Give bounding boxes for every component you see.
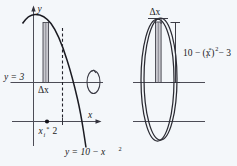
- label-sample-point: x i *: [38, 125, 50, 138]
- region-panel: y x y = 3 Δx x i * 2 y = 10 − x 2: [3, 4, 122, 157]
- label-curve-equation: y = 10 − x 2: [64, 145, 122, 158]
- label-shell-height-paren: ): [211, 48, 214, 59]
- sample-point-dot: [45, 119, 49, 123]
- label-y-equals-3: y = 3: [3, 72, 24, 82]
- y-axis-arrowhead: [31, 6, 35, 12]
- label-x-tick-2: 2: [53, 126, 58, 136]
- shell-panel: Δx 10 − (x i * ) 2 − 3: [133, 7, 231, 142]
- revolution-arrow-icon: [87, 70, 100, 93]
- y-axis-label: y: [37, 4, 43, 14]
- label-shell-height-subscript: i: [206, 52, 208, 59]
- label-delta-x-right: Δx: [150, 7, 161, 17]
- label-sample-point-subscript: i: [43, 131, 45, 138]
- x-axis-arrowhead: [96, 119, 102, 123]
- label-shell-height-rhs: − 3: [219, 48, 232, 58]
- label-shell-height: 10 − (x i * ) 2 − 3: [183, 45, 231, 59]
- shell-method-figure: y x y = 3 Δx x i * 2 y = 10 − x 2: [0, 0, 237, 166]
- figure-root: y x y = 3 Δx x i * 2 y = 10 − x 2: [0, 0, 237, 166]
- label-curve-equation-exponent: 2: [119, 145, 122, 152]
- label-delta-x-left: Δx: [38, 85, 49, 95]
- label-sample-point-star: *: [46, 125, 49, 132]
- label-curve-equation-main: y = 10 − x: [64, 147, 106, 157]
- x-axis-label: x: [87, 110, 93, 120]
